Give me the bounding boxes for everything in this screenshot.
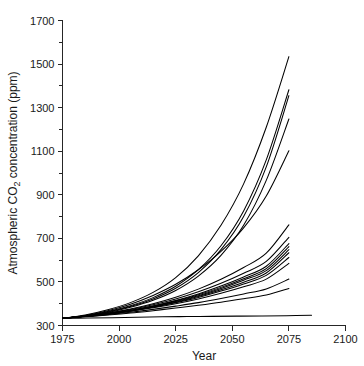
x-tick-label: 2100 <box>333 333 357 345</box>
axis-spines <box>63 21 346 326</box>
x-tick-label: 2000 <box>107 333 131 345</box>
y-tick-label: 500 <box>36 276 54 288</box>
y-axis-ticks: 3005007009001100130015001700 <box>30 15 62 332</box>
y-tick-label: 300 <box>36 320 54 332</box>
y-tick-label: 700 <box>36 232 54 244</box>
y-axis-title-post: concentration (ppm) <box>6 71 20 181</box>
x-tick-label: 1975 <box>50 333 74 345</box>
series-curve <box>63 244 289 319</box>
y-tick-label: 1100 <box>31 145 55 157</box>
y-axis-title: Atmospheric CO2 concentration (ppm) <box>6 71 22 274</box>
y-tick-label: 1500 <box>30 58 54 70</box>
x-axis-ticks: 197520002025205020752100 <box>50 326 357 345</box>
x-tick-label: 2025 <box>163 333 187 345</box>
data-series-group <box>63 57 312 319</box>
x-tick-label: 2050 <box>220 333 244 345</box>
y-tick-label: 1700 <box>30 15 54 27</box>
series-curve <box>63 225 289 318</box>
chart-figure: Atmospheric CO2 concentration (ppm) Year… <box>0 0 364 366</box>
y-tick-label: 1300 <box>30 102 54 114</box>
y-axis-title-pre: Atmospheric CO <box>6 187 20 275</box>
x-tick-label: 2075 <box>277 333 301 345</box>
x-axis-title: Year <box>192 349 216 363</box>
co2-projection-line-chart: Atmospheric CO2 concentration (ppm) Year… <box>0 0 364 366</box>
y-tick-label: 900 <box>36 189 54 201</box>
series-curve <box>63 151 289 319</box>
